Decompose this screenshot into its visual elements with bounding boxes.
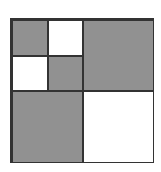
cell-top-left-small-b	[48, 20, 83, 56]
cell-top-left-small-a	[12, 20, 48, 56]
cell-top-left-small-d	[48, 56, 83, 91]
cell-bottom-right-quadrant	[83, 91, 154, 163]
cell-bottom-left-quadrant	[12, 91, 83, 163]
cell-top-left-small-c	[12, 56, 48, 91]
outer-square	[10, 18, 154, 163]
cell-top-right-quadrant	[83, 20, 154, 91]
